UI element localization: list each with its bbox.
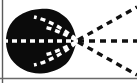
- figure-panel: Radial dashed-ray scattering diagram: [0, 0, 137, 83]
- scattering-diagram: [0, 0, 137, 83]
